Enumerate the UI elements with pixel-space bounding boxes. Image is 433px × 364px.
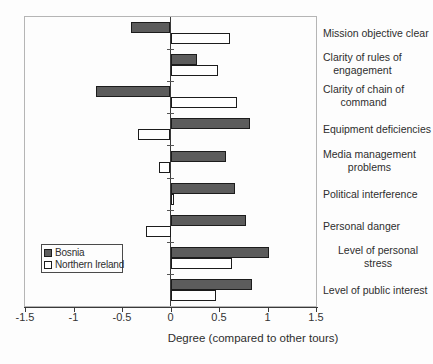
legend-label-northern-ireland: Northern Ireland [55, 259, 124, 270]
category-separator-tick [167, 242, 174, 243]
category-label: Political interference [323, 184, 418, 202]
bar-northern-ireland [171, 33, 230, 44]
bar-bosnia [171, 54, 197, 65]
bar-bosnia [171, 279, 252, 290]
legend-item-bosnia: Bosnia [44, 247, 120, 258]
x-tick-label: -1.5 [16, 311, 35, 323]
category-separator-tick [167, 49, 174, 50]
x-tick-label: 1 [264, 311, 270, 323]
category-separator-tick [167, 113, 174, 114]
x-axis-title: Degree (compared to other tours) [168, 332, 339, 344]
legend-swatch-northern-ireland [44, 261, 52, 269]
bar-northern-ireland [159, 162, 171, 173]
category-separator-tick [167, 210, 174, 211]
category-separator-tick [167, 145, 174, 146]
category-label: Clarity of rules ofengagement [323, 51, 402, 78]
bar-northern-ireland [171, 290, 217, 301]
category-labels: Mission objective clearClarity of rules … [323, 16, 433, 307]
legend-item-northern-ireland: Northern Ireland [44, 259, 120, 270]
bar-bosnia [171, 183, 236, 194]
category-label: Clarity of chain ofcommand [323, 83, 404, 110]
bar-bosnia [171, 215, 247, 226]
x-tick-label: -0.5 [113, 311, 132, 323]
legend-swatch-bosnia [44, 249, 52, 257]
bar-bosnia [171, 247, 270, 258]
legend: Bosnia Northern Ireland [41, 244, 123, 273]
category-label: Level of personal stress [323, 243, 433, 270]
category-separator-tick [167, 178, 174, 179]
category-label: Level of public interest [323, 280, 427, 298]
x-tick-label: 0.5 [211, 311, 226, 323]
bar-northern-ireland [171, 97, 238, 108]
bar-northern-ireland [171, 258, 232, 269]
bar-bosnia [96, 86, 171, 97]
category-label: Media managementproblems [323, 147, 416, 174]
x-tick-label: 0 [167, 311, 173, 323]
bar-northern-ireland [138, 129, 171, 140]
bar-chart-figure: -1.5-1-0.500.511.5 Degree (compared to o… [0, 0, 433, 364]
x-tick-label: -1 [69, 311, 79, 323]
category-label: Personal danger [323, 216, 400, 234]
bar-northern-ireland [146, 226, 170, 237]
bar-bosnia [131, 22, 171, 33]
bar-bosnia [171, 151, 226, 162]
category-label: Equipment deficiencies [323, 119, 431, 137]
bar-northern-ireland [171, 65, 219, 76]
bar-bosnia [171, 118, 251, 129]
x-tick-label: 1.5 [308, 311, 323, 323]
bar-northern-ireland [171, 194, 175, 205]
legend-label-bosnia: Bosnia [55, 247, 84, 258]
category-label: Mission objective clear [323, 23, 429, 41]
category-separator-tick [167, 274, 174, 275]
category-separator-tick [167, 81, 174, 82]
